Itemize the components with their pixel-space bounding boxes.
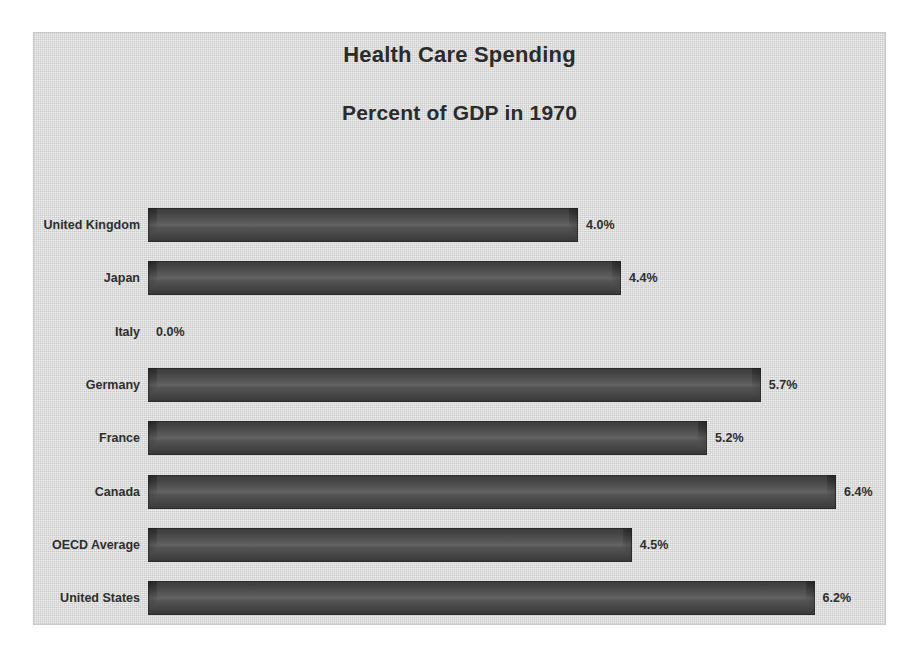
bar-fill: [148, 368, 761, 402]
bar-value-label: 0.0%: [156, 315, 185, 349]
bar-category-label: Germany: [0, 368, 140, 402]
bar: [148, 368, 761, 402]
bar-category-label: United States: [0, 581, 140, 615]
bar-row: Italy0.0%: [33, 315, 886, 349]
bar: [148, 208, 578, 242]
bar: [148, 261, 621, 295]
bar-category-label: OECD Average: [0, 528, 140, 562]
bar-category-label: United Kingdom: [0, 208, 140, 242]
bar: [148, 528, 632, 562]
bar-category-label: Japan: [0, 261, 140, 295]
bar-row: France5.2%: [33, 421, 886, 455]
bar-fill: [148, 208, 578, 242]
bar-category-label: France: [0, 421, 140, 455]
bar-row: United Kingdom4.0%: [33, 208, 886, 242]
bar-row: Germany5.7%: [33, 368, 886, 402]
bar-value-label: 6.4%: [844, 475, 873, 509]
bar-value-label: 4.4%: [629, 261, 658, 295]
bar-chart-plot-area: United Kingdom4.0%Japan4.4%Italy0.0%Germ…: [33, 32, 886, 625]
bar-fill: [148, 581, 815, 615]
bar-fill: [148, 421, 707, 455]
bar-value-label: 5.7%: [769, 368, 798, 402]
bar-row: United States6.2%: [33, 581, 886, 615]
bar-fill: [148, 528, 632, 562]
bar-fill: [148, 475, 836, 509]
bar: [148, 581, 815, 615]
bar: [148, 421, 707, 455]
bar: [148, 475, 836, 509]
bar-value-label: 6.2%: [823, 581, 852, 615]
bar-fill: [148, 261, 621, 295]
chart-container: Health Care Spending Percent of GDP in 1…: [33, 32, 886, 625]
bar-value-label: 4.0%: [586, 208, 615, 242]
bar-value-label: 4.5%: [640, 528, 669, 562]
bar-category-label: Canada: [0, 475, 140, 509]
bar-row: OECD Average4.5%: [33, 528, 886, 562]
bar-category-label: Italy: [0, 315, 140, 349]
bar-row: Canada6.4%: [33, 475, 886, 509]
bar-row: Japan4.4%: [33, 261, 886, 295]
bar-value-label: 5.2%: [715, 421, 744, 455]
